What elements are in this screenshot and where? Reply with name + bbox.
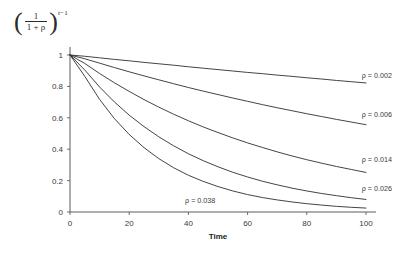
- formula-fraction: 11 + ρ: [23, 11, 50, 33]
- y-tick-label: 0.2: [52, 177, 64, 186]
- series-labels: ρ = 0.002ρ = 0.006ρ = 0.014ρ = 0.026ρ = …: [185, 71, 392, 206]
- series-curve: [70, 55, 366, 199]
- y-tick-label: 1: [59, 51, 64, 60]
- series-label: ρ = 0.006: [362, 110, 392, 119]
- series-curve: [70, 55, 366, 208]
- formula-exponent: t−1: [58, 9, 68, 17]
- y-axis-formula-label: (11 + ρ)t−1: [14, 9, 68, 35]
- x-axis-ticks: 020406080100: [68, 212, 373, 228]
- x-tick-label: 0: [68, 219, 73, 228]
- formula-denominator: 1 + ρ: [25, 21, 48, 32]
- y-tick-label: 0.4: [52, 145, 64, 154]
- x-tick-label: 60: [243, 219, 252, 228]
- plot-area: 020406080100 00.20.40.60.81 ρ = 0.002ρ =…: [0, 0, 399, 255]
- series-label: ρ = 0.038: [185, 196, 215, 205]
- x-axis-title: Time: [209, 232, 228, 241]
- data-curves: [70, 55, 366, 208]
- y-axis-ticks: 00.20.40.60.81: [52, 51, 70, 217]
- x-tick-label: 20: [125, 219, 134, 228]
- y-tick-label: 0: [59, 208, 64, 217]
- x-tick-label: 40: [184, 219, 193, 228]
- formula-numerator: 1: [25, 11, 48, 21]
- formula-close-paren: ): [49, 7, 58, 36]
- series-curve: [70, 55, 366, 172]
- formula-open-paren: (: [14, 7, 23, 36]
- x-tick-label: 80: [302, 219, 311, 228]
- series-label: ρ = 0.014: [362, 155, 392, 164]
- series-label: ρ = 0.002: [362, 71, 392, 80]
- series-curve: [70, 55, 366, 83]
- y-tick-label: 0.6: [52, 114, 64, 123]
- series-curve: [70, 55, 366, 125]
- y-tick-label: 0.8: [52, 82, 64, 91]
- x-tick-label: 100: [359, 219, 373, 228]
- chart-figure: (11 + ρ)t−1 020406080100 00.20.40.60.81 …: [0, 0, 399, 255]
- series-label: ρ = 0.026: [362, 184, 392, 193]
